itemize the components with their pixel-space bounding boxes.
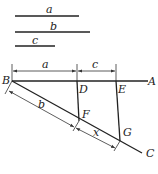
point-F-label: F bbox=[81, 108, 90, 121]
point-E-label: E bbox=[117, 83, 126, 96]
dimension-a-label: a bbox=[42, 58, 49, 71]
point-D-label: D bbox=[78, 83, 88, 96]
dimension-b-label: b bbox=[38, 98, 45, 111]
segment-b-label: b bbox=[50, 20, 57, 33]
point-C-label: C bbox=[146, 147, 155, 160]
dimension-x-label: x bbox=[93, 126, 100, 139]
point-G-label: G bbox=[123, 126, 132, 139]
point-B-label: B bbox=[1, 74, 10, 87]
point-A-label: A bbox=[147, 75, 156, 88]
segment-a-label: a bbox=[46, 3, 53, 16]
dimension-c-label: c bbox=[92, 58, 98, 71]
ext-line-g bbox=[114, 141, 120, 151]
segment-c-label: c bbox=[32, 34, 38, 47]
diagram: a b c a c b x B A D E F G C bbox=[0, 0, 158, 174]
geometry-figure: a b c a c b x B A D E F G C bbox=[0, 0, 158, 174]
